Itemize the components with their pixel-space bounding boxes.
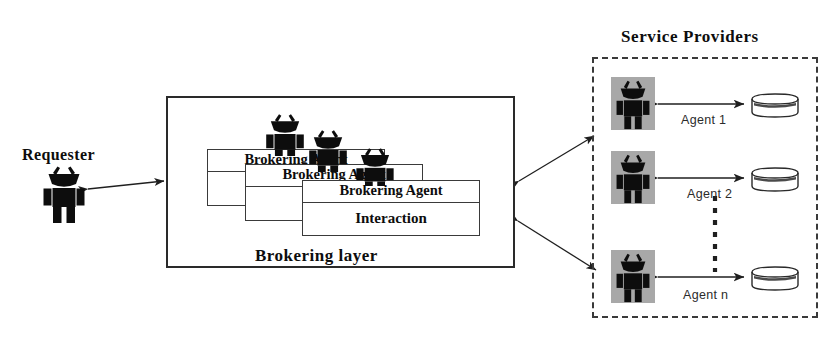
requester-label: Requester [22,146,95,164]
service-provider-2-plate [611,151,655,204]
brokering-agent-figure-front [352,146,398,186]
brokering-agent-card-front[interactable]: Brokering Agent Interaction [302,180,480,236]
service-provider-3-datastore [748,265,802,293]
database-cylinder-icon [748,92,802,120]
service-provider-3-label: Agent n [683,288,728,302]
agent-person-icon [305,128,351,172]
service-provider-2-label: Agent 2 [687,187,732,201]
service-provider-1-datastore [748,92,802,120]
service-provider-2-datastore [748,166,802,194]
agent-person-icon [611,77,655,130]
database-cylinder-icon [748,265,802,293]
card-body-label: Interaction [303,210,479,227]
service-providers-heading: Service Providers [621,27,759,47]
agent-person-icon [352,146,398,186]
brokering-agent-figure-back [262,112,308,156]
wire-brokering-to-provider-lower [518,221,596,270]
service-provider-1-plate [611,77,655,130]
agent-person-icon [611,250,655,303]
database-cylinder-icon [748,166,802,194]
wire-brokering-to-provider-upper [519,136,594,181]
agent-person-icon [611,151,655,204]
wire-requester-to-brokering [88,181,164,189]
service-provider-1-label: Agent 1 [681,113,726,127]
agent-person-icon [262,112,308,156]
diagram-canvas: Requester Brokering Agent [0,0,839,341]
service-provider-3-plate [611,250,655,303]
brokering-layer-label: Brokering layer [255,246,378,266]
requester-figure [40,164,88,224]
agent-person-icon [40,164,88,224]
brokering-agent-figure-middle [305,128,351,172]
